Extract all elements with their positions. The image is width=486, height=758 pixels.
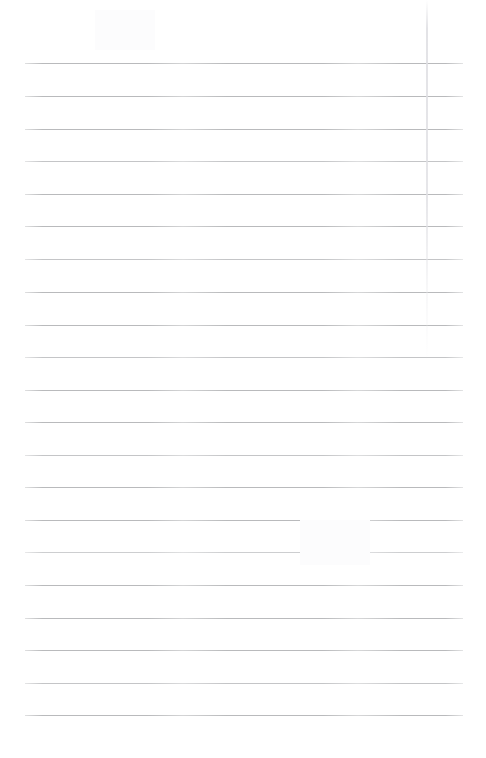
ruled-line [25,96,463,97]
ruled-line [25,618,463,619]
ruled-line [25,585,463,586]
ruled-line [25,455,463,456]
ruled-line [25,292,463,293]
ruled-line [25,194,463,195]
ruled-line [25,390,463,391]
ruled-line [25,129,463,130]
ruled-line [25,259,463,260]
ruled-line [25,325,463,326]
ruled-line [25,487,463,488]
ruled-line [25,226,463,227]
ruled-line [25,715,463,716]
ruled-line [25,357,463,358]
ruled-line [25,683,463,684]
ruled-line [25,63,463,64]
scanned-page [0,0,486,758]
ruled-line [25,520,463,521]
ruled-line [25,650,463,651]
ruled-lines-group [0,0,486,758]
ruled-line [25,161,463,162]
ruled-line [25,552,463,553]
ruled-line [25,422,463,423]
